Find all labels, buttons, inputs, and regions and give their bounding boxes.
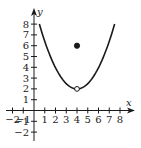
- x-tick-label: 8: [117, 114, 123, 125]
- y-tick-label: 4: [23, 62, 29, 73]
- y-tick-label: 1: [23, 94, 29, 105]
- y-tick-label: 5: [23, 51, 29, 62]
- x-axis-label: x: [126, 97, 132, 108]
- y-tick-label: 2: [23, 83, 29, 94]
- y-tick-label: −1: [14, 116, 29, 127]
- x-tick-label: 7: [106, 114, 112, 125]
- y-tick-label: 6: [23, 40, 29, 51]
- open-circle-point: [75, 87, 80, 92]
- y-axis-label: y: [36, 6, 43, 17]
- parabola-curve: [39, 24, 114, 89]
- y-tick-label: −2: [14, 127, 29, 138]
- x-tick-label: 6: [95, 114, 101, 125]
- x-tick-label: 2: [52, 114, 58, 125]
- function-graph: −2−112345678−2−112345678 x y: [0, 0, 141, 148]
- x-tick-label: 5: [85, 114, 91, 125]
- x-tick-label: 1: [42, 114, 48, 125]
- y-tick-label: 3: [23, 73, 29, 84]
- y-tick-label: 7: [23, 29, 29, 40]
- y-tick-label: 8: [23, 19, 29, 30]
- x-tick-label: 4: [74, 114, 80, 125]
- filled-dot-point: [74, 43, 79, 48]
- tick-labels: −2−112345678−2−112345678: [5, 19, 123, 138]
- points: [74, 43, 79, 91]
- x-tick-label: 3: [63, 114, 69, 125]
